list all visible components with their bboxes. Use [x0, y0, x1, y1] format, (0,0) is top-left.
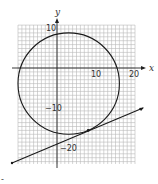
x-axis-arrow-icon — [141, 66, 146, 70]
line-endpoint-dot — [11, 162, 13, 164]
x-tick-label-10: 10 — [91, 70, 101, 79]
x-tick-label-20: 20 — [129, 70, 139, 79]
y-axis-label: y — [54, 7, 61, 17]
coordinate-plane-figure: x y 10 20 10 −10 −20 - — [0, 0, 158, 184]
tangent-point — [87, 129, 90, 132]
x-axis-label: x — [149, 63, 154, 73]
y-tick-label-neg20: −20 — [60, 144, 77, 153]
y-axis-arrow-icon — [55, 18, 59, 23]
stray-mark: - — [1, 175, 4, 184]
y-tick-label-neg10: −10 — [45, 104, 62, 113]
y-tick-label-10: 10 — [46, 24, 56, 33]
